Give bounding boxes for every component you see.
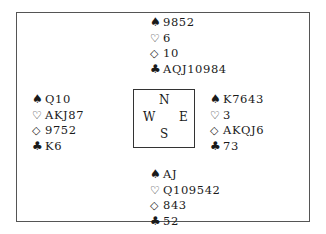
west-clubs: ♣ K6	[32, 139, 84, 155]
compass-east: E	[179, 110, 188, 124]
spade-icon: ♠	[150, 167, 163, 183]
north-hearts: ♡ 6	[150, 31, 227, 47]
west-diamonds: ◇ 9752	[32, 123, 84, 139]
north-diamonds: ◇ 10	[150, 46, 227, 62]
east-spades: ♠ K7643	[210, 92, 264, 108]
compass-box: N W E S	[133, 89, 195, 148]
west-diamonds-cards: 9752	[45, 123, 77, 139]
spade-icon: ♠	[32, 92, 45, 108]
south-diamonds-cards: 843	[163, 198, 187, 214]
diamond-icon: ◇	[210, 123, 223, 139]
diamond-icon: ◇	[32, 123, 45, 139]
compass-north: N	[159, 93, 170, 107]
compass-west: W	[143, 110, 155, 124]
south-spades-cards: AJ	[163, 167, 177, 183]
north-spades: ♠ 9852	[150, 15, 227, 31]
east-hand: ♠ K7643 ♡ 3 ◇ AKQJ6 ♣ 73	[210, 92, 264, 154]
east-clubs-cards: 73	[223, 139, 239, 155]
club-icon: ♣	[32, 139, 45, 155]
north-clubs: ♣ AQJ10984	[150, 62, 227, 78]
north-hearts-cards: 6	[163, 31, 171, 47]
north-spades-cards: 9852	[163, 15, 195, 31]
south-hearts-cards: Q109542	[163, 183, 221, 199]
diamond-icon: ◇	[150, 198, 163, 214]
south-hearts: ♡ Q109542	[150, 183, 221, 199]
north-diamonds-cards: 10	[163, 46, 179, 62]
west-hand: ♠ Q10 ♡ AKJ87 ◇ 9752 ♣ K6	[32, 92, 84, 154]
west-spades: ♠ Q10	[32, 92, 84, 108]
south-clubs: ♣ 52	[150, 214, 221, 230]
east-diamonds: ◇ AKQJ6	[210, 123, 264, 139]
club-icon: ♣	[210, 139, 223, 155]
diamond-icon: ◇	[150, 46, 163, 62]
east-diamonds-cards: AKQJ6	[223, 123, 264, 139]
club-icon: ♣	[150, 62, 163, 78]
spade-icon: ♠	[210, 92, 223, 108]
south-spades: ♠ AJ	[150, 167, 221, 183]
heart-icon: ♡	[150, 183, 163, 199]
north-clubs-cards: AQJ10984	[163, 62, 227, 78]
south-clubs-cards: 52	[163, 214, 179, 230]
club-icon: ♣	[150, 214, 163, 230]
spade-icon: ♠	[150, 15, 163, 31]
west-hearts-cards: AKJ87	[45, 108, 84, 124]
heart-icon: ♡	[210, 108, 223, 124]
compass-south: S	[160, 127, 168, 141]
east-hearts-cards: 3	[223, 108, 231, 124]
north-hand: ♠ 9852 ♡ 6 ◇ 10 ♣ AQJ10984	[150, 15, 227, 77]
west-hearts: ♡ AKJ87	[32, 108, 84, 124]
south-hand: ♠ AJ ♡ Q109542 ◇ 843 ♣ 52	[150, 167, 221, 229]
east-clubs: ♣ 73	[210, 139, 264, 155]
west-clubs-cards: K6	[45, 139, 62, 155]
east-spades-cards: K7643	[223, 92, 264, 108]
west-spades-cards: Q10	[45, 92, 71, 108]
east-hearts: ♡ 3	[210, 108, 264, 124]
heart-icon: ♡	[150, 31, 163, 47]
heart-icon: ♡	[32, 108, 45, 124]
south-diamonds: ◇ 843	[150, 198, 221, 214]
